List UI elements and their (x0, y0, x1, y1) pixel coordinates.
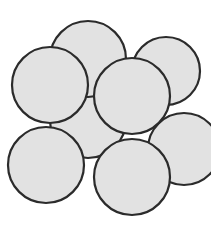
sphere-bottom-middle: bottom middle sphere (94, 139, 170, 215)
sphere-center-front: center front sphere (94, 58, 170, 134)
spheres-group: center back spheretop middle spheretop r… (8, 21, 211, 215)
sphere-middle-left: middle left sphere (12, 47, 88, 123)
sphere-bottom-left: bottom left sphere (8, 127, 84, 203)
packing-diagram-canvas: center back spheretop middle spheretop r… (0, 0, 211, 226)
packing-diagram-figure: center back spheretop middle spheretop r… (0, 0, 211, 226)
